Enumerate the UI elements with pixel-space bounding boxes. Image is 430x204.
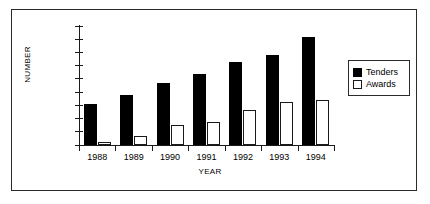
bar-tenders-1992 [229,62,242,145]
x-tick-mark [298,145,299,151]
x-tick-label: 1992 [223,152,263,162]
legend-item-tenders: Tenders [353,67,405,77]
x-tick-mark [115,145,116,151]
bar-awards-1994 [316,100,329,145]
x-tick-mark [261,145,262,151]
plot-area [79,26,334,145]
legend-item-awards: Awards [353,79,405,89]
bar-awards-1988 [98,142,111,145]
bar-tenders-1989 [120,95,133,145]
bar-awards-1992 [243,110,256,145]
chart-legend: Tenders Awards [348,60,410,96]
bar-awards-1989 [134,136,147,145]
bar-tenders-1990 [157,83,170,145]
bar-tenders-1993 [266,55,279,145]
bar-tenders-1988 [84,104,97,145]
x-tick-mark [334,145,335,151]
x-tick-mark [225,145,226,151]
x-tick-label: 1991 [187,152,227,162]
legend-label-awards: Awards [366,79,396,89]
x-tick-mark [79,145,80,151]
legend-swatch-awards-icon [353,80,362,89]
x-axis-title: YEAR [80,167,340,176]
x-tick-label: 1993 [259,152,299,162]
bar-tenders-1991 [193,74,206,145]
x-tick-label: 1990 [150,152,190,162]
bar-awards-1993 [280,102,293,145]
x-tick-label: 1988 [77,152,117,162]
bar-awards-1991 [207,122,220,145]
bar-tenders-1994 [302,37,315,145]
legend-swatch-tenders-icon [353,68,362,77]
x-tick-label: 1989 [114,152,154,162]
bar-awards-1990 [171,125,184,145]
legend-label-tenders: Tenders [366,67,398,77]
y-axis-title: NUMBER [23,30,32,100]
x-tick-label: 1994 [296,152,336,162]
chart-figure: NUMBER YEAR 0200040006000800010000120001… [0,0,430,204]
x-tick-mark [152,145,153,151]
x-tick-mark [188,145,189,151]
